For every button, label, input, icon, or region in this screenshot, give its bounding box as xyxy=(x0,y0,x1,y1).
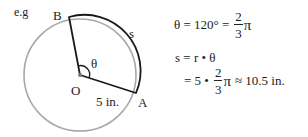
eq3-pi: π xyxy=(223,73,231,90)
eq1-fraction: 2 3 xyxy=(234,10,243,40)
equation-line-3: = 5 • 2 3 π ≈ 10.5 in. xyxy=(184,66,285,96)
center-point xyxy=(78,73,82,77)
angle-label-theta: θ xyxy=(91,57,97,70)
equation-line-1: θ = 120° = 2 3 π xyxy=(174,10,251,40)
eq3-denominator: 3 xyxy=(215,81,222,96)
eq3-fraction: 2 3 xyxy=(214,66,223,96)
point-label-a: A xyxy=(138,96,147,109)
eq2-text: s = r • θ xyxy=(175,50,216,66)
eq1-numerator: 2 xyxy=(234,10,243,25)
arc-label-s: s xyxy=(129,27,134,40)
point-label-o: O xyxy=(71,84,80,97)
point-label-b: B xyxy=(53,9,62,22)
eq3-prefix: = 5 • xyxy=(184,73,209,89)
eq1-pi: π xyxy=(244,17,252,34)
eq1-lhs: θ = 120° = xyxy=(174,17,229,33)
eq3-numerator: 2 xyxy=(214,66,223,81)
radius-label: 5 in. xyxy=(96,95,119,108)
circle-sector-diagram xyxy=(0,0,160,137)
eq3-approx: ≈ 10.5 in. xyxy=(235,73,285,89)
equation-line-2: s = r • θ xyxy=(175,50,216,66)
eq1-denominator: 3 xyxy=(235,25,242,40)
